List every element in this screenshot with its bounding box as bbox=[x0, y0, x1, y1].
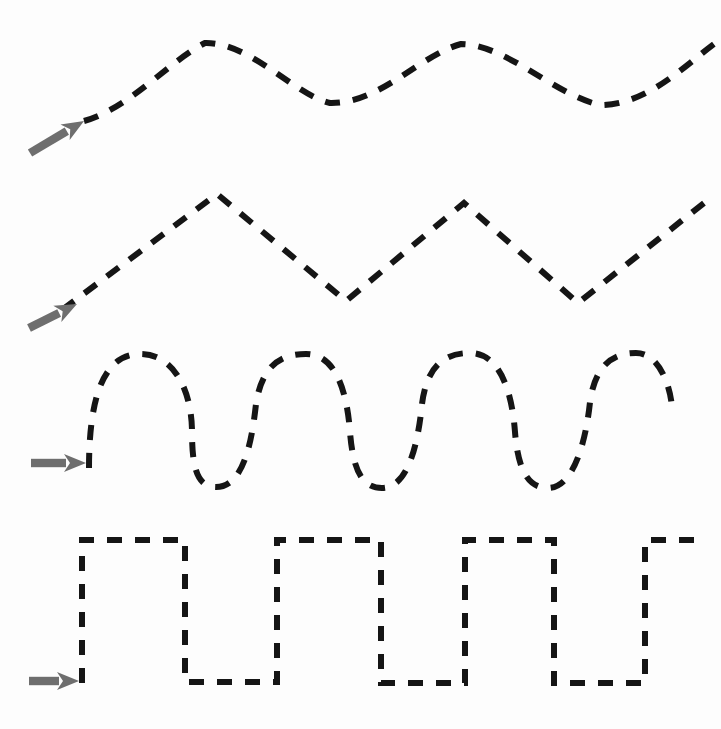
canvas-background bbox=[0, 0, 721, 729]
arrow-shaft bbox=[31, 459, 66, 467]
waveform-diagram-canvas bbox=[0, 0, 721, 729]
arrow-shaft bbox=[29, 677, 59, 685]
waveform-svg bbox=[0, 0, 721, 729]
